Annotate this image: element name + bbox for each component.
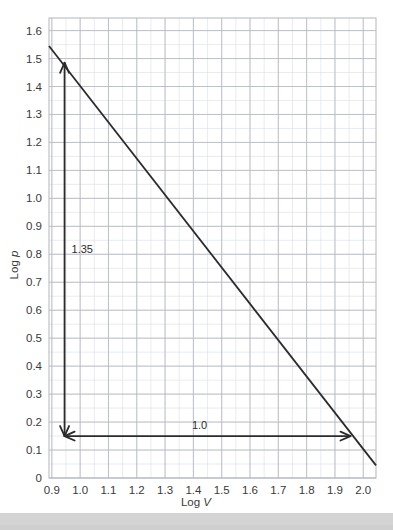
y-axis-tick-label: 0.1 (26, 444, 42, 456)
y-axis-tick-label: 1.0 (26, 192, 42, 204)
page-footer-bar (0, 513, 393, 530)
log-p-vs-log-v-chart: 00.10.20.30.40.50.60.70.80.91.01.11.21.3… (0, 0, 393, 513)
x-axis-tick-label: 1.8 (299, 484, 315, 496)
y-axis-tick-label: 0 (36, 472, 42, 484)
y-axis-tick-label: 0.2 (26, 416, 42, 428)
x-axis-tick-label: 1.3 (157, 484, 173, 496)
y-axis-tick-label: 0.9 (26, 220, 42, 232)
page-footer-shadow (0, 525, 393, 530)
x-axis-title: Log V (181, 496, 212, 508)
y-axis-tick-label: 1.2 (26, 136, 42, 148)
y-axis-tick-label: 1.6 (26, 25, 42, 37)
x-axis-tick-label: 1.2 (129, 484, 145, 496)
x-axis-tick-label: 1.9 (327, 484, 343, 496)
y-axis-tick-label: 0.3 (26, 388, 42, 400)
y-axis-tick-label: 1.1 (26, 164, 42, 176)
y-axis-tick-label: 0.6 (26, 304, 42, 316)
annotation-value-label: 1.35 (72, 243, 93, 255)
axis-title-symbol: p (8, 250, 20, 258)
y-axis-tick-label: 1.3 (26, 108, 42, 120)
y-axis-title: Log p (8, 250, 20, 279)
x-axis-tick-label: 1.7 (270, 484, 286, 496)
axis-title-symbol: V (203, 496, 212, 508)
axis-title-prefix: Log (8, 257, 20, 279)
y-axis-tick-label: 0.7 (26, 276, 42, 288)
x-axis-tick-label: 0.9 (44, 484, 60, 496)
chart-figure: 00.10.20.30.40.50.60.70.80.91.01.11.21.3… (0, 0, 393, 530)
x-axis-tick-label: 1.1 (100, 484, 116, 496)
x-axis-tick-label: 1.4 (185, 484, 202, 496)
x-axis-tick-label: 1.0 (72, 484, 88, 496)
annotation-value-label: 1.0 (192, 419, 207, 431)
x-axis-tick-label: 2.0 (355, 484, 371, 496)
axis-title-prefix: Log (181, 496, 203, 508)
y-axis-tick-label: 1.5 (26, 53, 42, 65)
y-axis-tick-label: 0.4 (26, 360, 43, 372)
y-axis-tick-label: 0.5 (26, 332, 42, 344)
y-axis-tick-label: 1.4 (26, 81, 43, 93)
y-axis-tick-label: 0.8 (26, 248, 42, 260)
x-axis-tick-label: 1.6 (242, 484, 258, 496)
x-axis-tick-label: 1.5 (214, 484, 230, 496)
